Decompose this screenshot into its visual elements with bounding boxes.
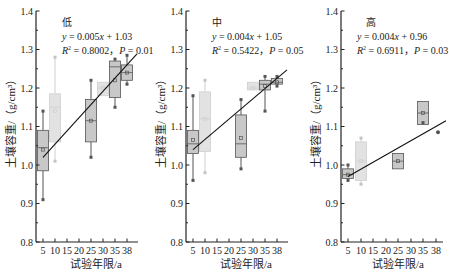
outlier-max xyxy=(126,54,129,57)
box-25 xyxy=(393,153,404,168)
box-35 xyxy=(110,58,121,109)
x-tick-label: 10 xyxy=(50,245,60,256)
x-tick-label: 38 xyxy=(122,245,132,256)
regression-stats: R2 = 0.8002，P = 0.01 xyxy=(61,45,154,56)
outlier-min xyxy=(192,179,195,182)
y-tick-label: 1.1 xyxy=(326,121,339,132)
outlier-max xyxy=(264,75,267,78)
box-iqr xyxy=(98,82,109,95)
regression-equation: y = 0.004x + 0.96 xyxy=(356,31,427,42)
x-tick-label: 15 xyxy=(62,245,72,256)
x-tick-label: 20 xyxy=(381,245,391,256)
x-tick-label: 10 xyxy=(200,245,210,256)
box-10 xyxy=(356,137,367,186)
outlier-min xyxy=(422,121,425,124)
panel-medium: 中 y = 0.004x + 1.05 R2 = 0.5422，P = 0.05… xyxy=(154,6,304,271)
outlier-max xyxy=(204,79,207,82)
y-tick-label: 1.3 xyxy=(171,44,184,55)
outlier-min xyxy=(204,171,207,174)
box-5 xyxy=(188,94,199,182)
plot-area xyxy=(188,70,288,182)
x-tick-label: 38 xyxy=(431,245,441,256)
outlier-max xyxy=(360,137,363,140)
y-tick-label: 1.1 xyxy=(21,121,34,132)
outlier-min xyxy=(276,85,279,88)
x-tick-label: 35 xyxy=(418,245,428,256)
y-tick-label: 0.8 xyxy=(171,237,184,248)
x-tick-label: 30 xyxy=(98,245,108,256)
x-axis-title: 试验年限/a xyxy=(372,257,424,270)
y-tick-label: 0.8 xyxy=(21,237,34,248)
outlier-min xyxy=(114,106,117,109)
y-axis-title: 土壤容重/（g/cm³） xyxy=(154,74,167,168)
x-tick-label: 35 xyxy=(260,245,270,256)
y-tick-label: 1.4 xyxy=(326,6,339,17)
box-iqr xyxy=(248,82,259,90)
regression-stats: R2 = 0.6911，P = 0.03 xyxy=(356,45,448,56)
x-tick-label: 30 xyxy=(406,245,416,256)
y-tick-label: 1.1 xyxy=(171,121,184,132)
outlier-max xyxy=(42,110,45,113)
regression-equation: y = 0.005x + 1.03 xyxy=(61,31,132,42)
x-tick-label: 35 xyxy=(110,245,120,256)
plot-area xyxy=(38,54,138,201)
y-tick-label: 0.9 xyxy=(326,198,339,209)
x-tick-label: 5 xyxy=(41,245,46,256)
box-iqr xyxy=(188,130,199,153)
y-tick-label: 1.2 xyxy=(326,83,339,94)
y-axis-title: 土壤容重/（g/cm³） xyxy=(309,74,322,168)
panel-label: 低 xyxy=(62,16,72,28)
outlier-min xyxy=(54,160,57,163)
box-iqr xyxy=(236,115,247,157)
y-tick-label: 1.2 xyxy=(21,83,34,94)
y-tick-label: 1.4 xyxy=(171,6,184,17)
figure-soil-bulk-density: 低 y = 0.005x + 1.03 R2 = 0.8002，P = 0.01… xyxy=(0,0,449,278)
y-tick-label: 1.0 xyxy=(171,160,184,171)
x-tick-label: 5 xyxy=(191,245,196,256)
panel-high: 高 y = 0.004x + 0.96 R2 = 0.6911，P = 0.03… xyxy=(309,6,448,271)
x-tick-label: 25 xyxy=(236,245,246,256)
box-30 xyxy=(98,82,109,95)
box-5 xyxy=(343,164,354,182)
box-10 xyxy=(200,79,211,174)
y-tick-label: 1.4 xyxy=(21,6,34,17)
panel-label: 中 xyxy=(212,16,222,28)
y-tick-label: 0.9 xyxy=(21,198,34,209)
panel-low: 低 y = 0.005x + 1.03 R2 = 0.8002，P = 0.01… xyxy=(4,6,154,271)
outlier-max xyxy=(192,94,195,97)
regression-stats: R2 = 0.5422，P = 0.05 xyxy=(211,45,304,56)
x-tick-label: 15 xyxy=(368,245,378,256)
data-point xyxy=(436,130,440,134)
y-tick-label: 1.3 xyxy=(326,44,339,55)
box-35 xyxy=(418,101,429,124)
box-30 xyxy=(248,82,259,90)
y-tick-label: 0.9 xyxy=(171,198,184,209)
x-tick-label: 25 xyxy=(393,245,403,256)
box-iqr xyxy=(50,94,61,142)
x-axis-title: 试验年限/a xyxy=(220,257,272,270)
x-tick-label: 38 xyxy=(272,245,282,256)
outlier-min xyxy=(264,110,267,113)
outlier-min xyxy=(347,179,350,182)
x-tick-label: 25 xyxy=(86,245,96,256)
panel-label: 高 xyxy=(366,16,376,28)
box-25 xyxy=(86,79,97,159)
y-tick-label: 1.3 xyxy=(21,44,34,55)
box-38 xyxy=(436,130,440,134)
y-axis-title: 土壤容重/（g/cm³） xyxy=(4,74,17,168)
regression-equation: y = 0.004x + 1.05 xyxy=(211,31,282,42)
x-tick-label: 10 xyxy=(356,245,366,256)
chart-canvas: 低 y = 0.005x + 1.03 R2 = 0.8002，P = 0.01… xyxy=(0,0,449,278)
outlier-min xyxy=(42,198,45,201)
axes: 0.80.91.01.11.21.31.4510152025303538 xyxy=(326,6,444,257)
x-tick-label: 20 xyxy=(74,245,84,256)
outlier-min xyxy=(360,183,363,186)
outlier-max xyxy=(54,56,57,59)
outlier-min xyxy=(126,83,129,86)
x-tick-label: 20 xyxy=(224,245,234,256)
outlier-min xyxy=(240,167,243,170)
outlier-max xyxy=(114,58,117,61)
x-tick-label: 30 xyxy=(248,245,258,256)
box-5 xyxy=(38,110,49,202)
outlier-max xyxy=(347,164,350,167)
